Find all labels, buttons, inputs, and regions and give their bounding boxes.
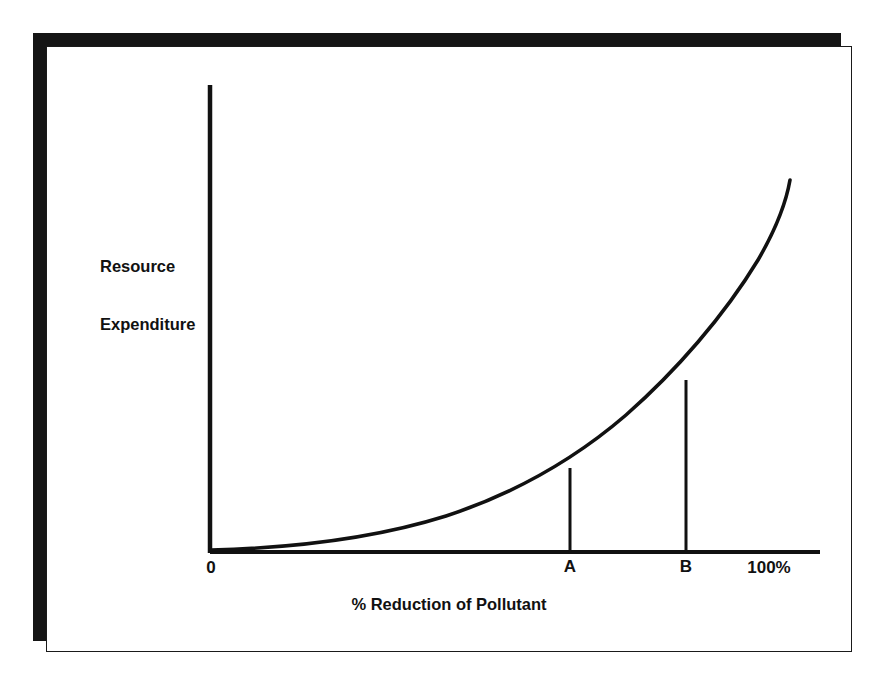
plot-area: Resource Expenditure 0 A B 100% % Reduct… (46, 46, 852, 652)
cost-curve (211, 180, 790, 550)
y-axis-label-line-2: Expenditure (100, 315, 195, 334)
x-tick-label-b: B (671, 557, 701, 577)
y-axis-label-line-1: Resource (100, 257, 195, 276)
x-tick-label-100: 100% (729, 558, 809, 578)
figure-frame: Resource Expenditure 0 A B 100% % Reduct… (0, 0, 890, 689)
x-tick-label-0: 0 (196, 558, 226, 578)
y-axis-label: Resource Expenditure (100, 218, 195, 374)
x-tick-label-a: A (555, 557, 585, 577)
x-axis-title: % Reduction of Pollutant (46, 595, 852, 614)
